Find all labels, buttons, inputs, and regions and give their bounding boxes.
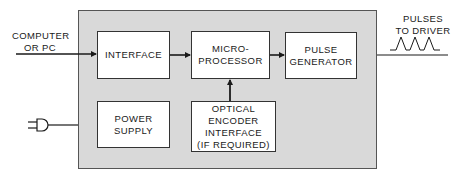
pulse-waveform-icon (390, 37, 440, 50)
connection-wires (0, 0, 461, 182)
power-plug-icon (28, 119, 48, 131)
